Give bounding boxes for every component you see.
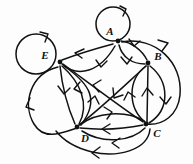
edge-c-b-left-arc-arrowhead (124, 92, 135, 100)
edge-c-d-middle-path (80, 125, 143, 129)
edge-e-d-straight-path (60, 66, 75, 124)
node-a-dot[interactable] (116, 39, 121, 44)
node-c-dot[interactable] (144, 122, 149, 127)
edge-c-d-lower-path (82, 128, 145, 140)
edge-a-b-upper-arrowhead (129, 39, 140, 46)
edge-a-e-upper (62, 44, 113, 60)
edge-c-e-diagonal (63, 64, 143, 122)
self-loop-e-circle (16, 34, 56, 74)
edge-c-e-diagonal-arrowhead (93, 80, 101, 92)
edge-d-e-inner2-arrowhead (88, 96, 99, 104)
edge-c-a-outer-path (122, 41, 180, 124)
edge-e-d-straight (58, 66, 75, 124)
node-label-b: B (153, 50, 161, 62)
node-label-d: D (80, 132, 89, 144)
edge-b-d-diagonal-path (79, 66, 146, 125)
edge-c-b-straight-path (147, 66, 148, 122)
node-e-dot[interactable] (58, 60, 63, 65)
edge-d-e-outer-path (29, 67, 77, 134)
edge-d-e-outer (26, 67, 77, 134)
edge-d-e-outer-arrowhead (26, 98, 34, 110)
edge-d-c-upper-arrowhead (104, 107, 112, 119)
edge-c-d-lower (82, 128, 145, 148)
edge-e-a-lower-path (62, 46, 115, 71)
edge-a-b-lower-path (119, 45, 145, 64)
node-label-e: E (40, 49, 48, 61)
edge-a-b-lower (119, 45, 145, 64)
edge-c-d-outer-path (56, 129, 150, 154)
edge-c-e-diagonal-path (63, 64, 143, 122)
self-loop-e-arrowhead (40, 32, 48, 42)
edge-b-d-diagonal-arrowhead (113, 88, 123, 98)
edge-a-e-upper-path (62, 44, 113, 60)
node-label-c: C (153, 127, 161, 139)
node-b-dot[interactable] (146, 61, 151, 66)
edge-c-a-outer (122, 40, 180, 124)
self-loop-e (16, 32, 56, 74)
edge-c-d-outer (56, 129, 150, 158)
edge-e-a-lower (62, 46, 115, 71)
node-label-a: A (105, 25, 113, 37)
graph-figure: A B C D E (0, 0, 193, 164)
edge-b-c-right-arc-path (149, 66, 165, 123)
node-d-dot[interactable] (75, 125, 80, 130)
edge-c-d-middle (80, 124, 143, 134)
directed-graph-canvas: A B C D E (0, 0, 193, 164)
edge-b-d-diagonal (79, 66, 146, 125)
edge-c-b-straight (142, 66, 153, 122)
